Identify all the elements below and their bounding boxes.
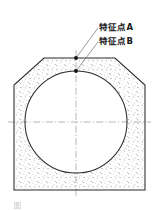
feature-point-a-marker: [74, 56, 78, 60]
tunnel-cross-section-diagram: [0, 0, 159, 210]
figure-caption: 图: [14, 200, 145, 210]
figure-container: 特征点A 特征点B 图: [0, 0, 159, 210]
feature-point-a-label: 特征点A: [99, 23, 133, 32]
feature-point-b-marker: [74, 69, 78, 73]
feature-point-b-label: 特征点B: [99, 37, 133, 46]
